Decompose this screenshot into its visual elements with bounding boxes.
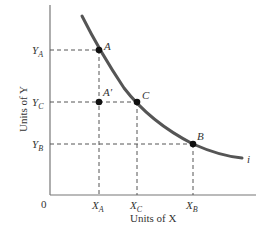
origin-label: 0 bbox=[41, 198, 47, 210]
label-c: C bbox=[142, 89, 150, 101]
tick-xb: XB bbox=[185, 199, 198, 214]
guide-lines bbox=[50, 50, 193, 195]
point-c bbox=[134, 99, 141, 106]
point-a bbox=[96, 47, 103, 54]
x-axis-title: Units of X bbox=[130, 212, 177, 224]
label-a: A bbox=[103, 40, 111, 52]
point-b bbox=[190, 141, 197, 148]
tick-yc: YC bbox=[32, 96, 44, 111]
tick-ya: YA bbox=[32, 44, 43, 59]
indifference-diagram: A A′ C B i YA YC YB XA XC XB 0 Units of … bbox=[0, 0, 270, 237]
label-curve-i: i bbox=[247, 153, 250, 165]
label-a-prime: A′ bbox=[102, 86, 113, 98]
y-axis-title: Units of Y bbox=[17, 86, 29, 132]
tick-yb: YB bbox=[32, 138, 43, 153]
point-a-prime bbox=[96, 99, 103, 106]
tick-xa: XA bbox=[91, 199, 104, 214]
label-b: B bbox=[197, 130, 204, 142]
